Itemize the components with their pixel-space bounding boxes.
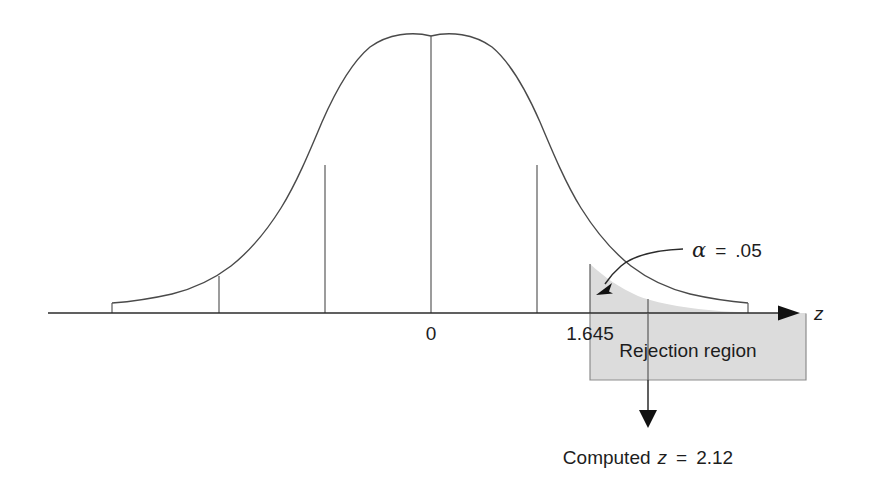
alpha-symbol: α bbox=[692, 238, 706, 262]
figure-canvas: z 0 1.645 Rejection region α=.05 Compute… bbox=[0, 0, 876, 493]
alpha-annotation-label: α=.05 bbox=[692, 238, 762, 262]
tick-label-zero: 0 bbox=[426, 323, 437, 344]
alpha-tail-shading bbox=[590, 264, 748, 314]
computed-z-value: 2.12 bbox=[696, 447, 733, 468]
rejection-region-label: Rejection region bbox=[619, 340, 756, 361]
computed-z-label: Computedz=2.12 bbox=[563, 447, 733, 468]
tick-label-critical-value: 1.645 bbox=[566, 323, 614, 344]
normal-curve-figure: z 0 1.645 Rejection region α=.05 Compute… bbox=[0, 0, 876, 493]
z-axis-label: z bbox=[813, 303, 824, 324]
computed-z-variable: z bbox=[657, 447, 668, 468]
normal-curve bbox=[112, 34, 748, 303]
computed-z-arrowhead bbox=[639, 410, 657, 428]
computed-z-prefix: Computed bbox=[563, 447, 651, 468]
alpha-value: .05 bbox=[735, 240, 761, 261]
